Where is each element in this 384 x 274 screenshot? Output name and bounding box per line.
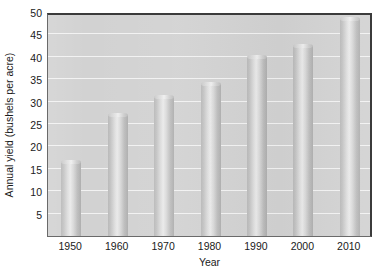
bar <box>154 97 174 236</box>
x-tick-label: 2000 <box>279 240 325 253</box>
bar-top-cap <box>61 160 81 164</box>
bar-top-cap <box>340 17 360 21</box>
x-tick-label: 1960 <box>94 240 140 253</box>
y-tick-label: 5 <box>18 209 42 220</box>
bar <box>201 84 221 236</box>
y-axis-title: Annual yield (bushels per acre) <box>2 5 16 245</box>
y-tick-label: 40 <box>18 52 42 63</box>
x-tick-label: 1950 <box>47 240 93 253</box>
x-tick-label: 2010 <box>326 240 372 253</box>
bar <box>247 57 267 236</box>
x-tick-label: 1970 <box>140 240 186 253</box>
y-axis-tick-group: 5101520253035404550 <box>18 8 42 244</box>
bar-top-cap <box>201 82 221 86</box>
gridline <box>48 56 370 57</box>
y-tick-label: 20 <box>18 142 42 153</box>
x-tick-label: 1990 <box>233 240 279 253</box>
y-tick-label: 15 <box>18 164 42 175</box>
y-tick-label: 30 <box>18 97 42 108</box>
bar <box>61 162 81 236</box>
bar-top-cap <box>154 95 174 99</box>
bar <box>340 19 360 236</box>
x-axis-tick-group: 1950196019701980199020002010 <box>47 240 372 254</box>
x-tick-label: 1980 <box>187 240 233 253</box>
bar-top-cap <box>108 113 128 117</box>
y-tick-label: 10 <box>18 187 42 198</box>
bar <box>108 115 128 236</box>
y-tick-label: 35 <box>18 75 42 86</box>
bar-top-cap <box>293 44 313 48</box>
bar-top-cap <box>247 55 267 59</box>
y-tick-label: 45 <box>18 30 42 41</box>
gridline <box>48 33 370 34</box>
y-tick-label: 25 <box>18 120 42 131</box>
bar <box>293 46 313 236</box>
bar-chart-figure: Annual yield (bushels per acre) 51015202… <box>0 0 384 274</box>
y-tick-label: 50 <box>18 8 42 19</box>
x-axis-title: Year <box>47 256 372 269</box>
plot-area <box>47 13 372 237</box>
gridline <box>48 78 370 79</box>
